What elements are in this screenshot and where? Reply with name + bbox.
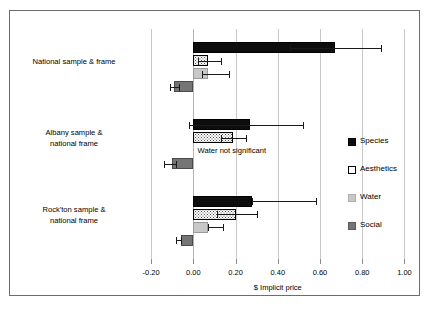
error-bar-cap xyxy=(381,45,382,52)
x-tick-label: -0.20 xyxy=(131,268,171,277)
error-bar-cap xyxy=(252,198,253,205)
error-bar-social-group-1 xyxy=(164,164,177,165)
error-bar-aesthetics-group-1 xyxy=(221,138,246,139)
error-bar-cap xyxy=(176,237,177,244)
gridline-0.20 xyxy=(236,29,237,259)
gridline-0.40 xyxy=(278,29,279,259)
x-tick-label: 0.80 xyxy=(342,268,382,277)
error-bar-cap xyxy=(170,84,171,91)
bar-social-group-2[interactable] xyxy=(181,235,194,246)
category-label-albany: Albany sample & national frame xyxy=(16,127,132,149)
aesthetics-swatch xyxy=(348,166,356,174)
x-tick-label: 0.40 xyxy=(258,268,298,277)
legend-label-aesthetics: Aesthetics xyxy=(360,164,397,173)
error-bar-social-group-0 xyxy=(170,87,178,88)
error-bar-cap xyxy=(229,71,230,78)
gridline--0.20 xyxy=(151,29,152,259)
water-swatch xyxy=(348,194,356,202)
error-bar-water-group-0 xyxy=(202,74,229,75)
error-bar-cap xyxy=(316,198,317,205)
legend-label-water: Water xyxy=(360,192,381,201)
error-bar-cap xyxy=(164,161,165,168)
error-bar-species-group-1 xyxy=(189,125,303,126)
error-bar-cap xyxy=(202,71,203,78)
error-bar-aesthetics-group-2 xyxy=(217,214,257,215)
error-bar-aesthetics-group-0 xyxy=(198,61,221,62)
x-tick-mark xyxy=(193,259,194,264)
bar-water-group-2[interactable] xyxy=(193,222,208,233)
x-tick-mark xyxy=(320,259,321,264)
bar-species-group-2[interactable] xyxy=(193,196,252,207)
legend-label-species: Species xyxy=(360,136,388,145)
error-bar-water-group-2 xyxy=(208,227,223,228)
error-bar-species-group-0 xyxy=(290,48,381,49)
water-not-significant-annotation: Water not significant xyxy=(198,146,267,155)
x-tick-label: 0.60 xyxy=(300,268,340,277)
x-tick-label: 0.00 xyxy=(173,268,213,277)
category-label-rockton: Rock'ton sample & national frame xyxy=(16,204,132,226)
error-bar-cap xyxy=(221,58,222,65)
x-axis-title: $ Implicit price xyxy=(218,283,338,292)
error-bar-cap xyxy=(246,135,247,142)
species-swatch xyxy=(348,138,356,146)
category-label-national: National sample & frame xyxy=(16,56,132,67)
chart-frame: National sample & frame Albany sample & … xyxy=(9,10,420,296)
error-bar-cap xyxy=(208,224,209,231)
error-bar-cap xyxy=(223,224,224,231)
x-tick-mark xyxy=(278,259,279,264)
error-bar-cap xyxy=(217,211,218,218)
error-bar-cap xyxy=(290,45,291,52)
error-bar-cap xyxy=(257,211,258,218)
error-bar-cap xyxy=(189,122,190,129)
error-bar-cap xyxy=(181,237,182,244)
error-bar-species-group-2 xyxy=(252,201,315,202)
social-swatch xyxy=(348,222,356,230)
gridline-0.60 xyxy=(320,29,321,259)
x-tick-mark xyxy=(236,259,237,264)
error-bar-cap xyxy=(198,58,199,65)
gridline-1.00 xyxy=(404,29,405,259)
x-tick-label: 1.00 xyxy=(384,268,424,277)
error-bar-cap xyxy=(179,84,180,91)
error-bar-cap xyxy=(303,122,304,129)
x-tick-mark xyxy=(362,259,363,264)
error-bar-cap xyxy=(176,161,177,168)
error-bar-cap xyxy=(221,135,222,142)
x-tick-mark xyxy=(151,259,152,264)
x-tick-mark xyxy=(404,259,405,264)
x-tick-label: 0.20 xyxy=(216,268,256,277)
legend-label-social: Social xyxy=(360,220,382,229)
